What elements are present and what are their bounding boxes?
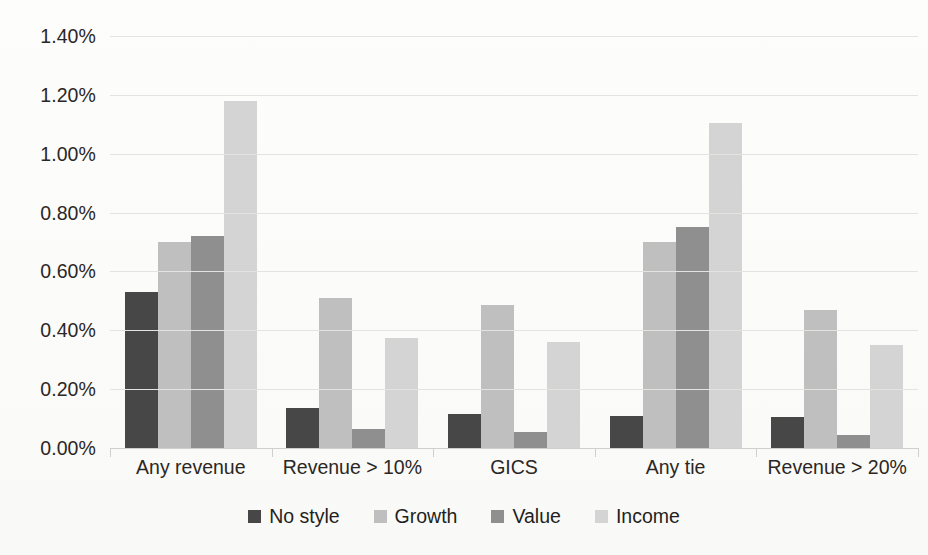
bar-group <box>110 36 272 448</box>
gridline <box>110 389 918 390</box>
plot-area <box>110 36 918 448</box>
x-axis-label: Any tie <box>595 456 757 479</box>
bar[interactable] <box>610 416 643 448</box>
bar-group <box>272 36 434 448</box>
y-axis-tick-label: 0.60% <box>40 260 96 283</box>
bar-group <box>595 36 757 448</box>
bar[interactable] <box>837 435 870 448</box>
bar[interactable] <box>125 292 158 448</box>
bar[interactable] <box>514 432 547 448</box>
bar[interactable] <box>481 305 514 448</box>
bar[interactable] <box>158 242 191 448</box>
bar[interactable] <box>448 414 481 448</box>
gridline <box>110 36 918 37</box>
bar[interactable] <box>676 227 709 448</box>
x-axis-tick <box>433 448 434 457</box>
bar-group <box>433 36 595 448</box>
x-axis-label: Revenue > 10% <box>272 456 434 479</box>
legend-item[interactable]: Value <box>491 505 560 528</box>
y-axis-tick-label: 0.40% <box>40 319 96 342</box>
y-axis-tick-label: 1.40% <box>40 25 96 48</box>
bar[interactable] <box>547 342 580 448</box>
x-axis-tick <box>272 448 273 457</box>
bar-group <box>756 36 918 448</box>
legend-label: Growth <box>395 505 458 528</box>
x-axis-tick <box>756 448 757 457</box>
y-axis-tick-label: 0.80% <box>40 201 96 224</box>
x-axis-tick <box>918 448 919 457</box>
y-axis-tick-label: 0.20% <box>40 378 96 401</box>
bar[interactable] <box>191 236 224 448</box>
legend-item[interactable]: No style <box>248 505 339 528</box>
x-axis-tick <box>110 448 111 457</box>
legend-item[interactable]: Income <box>595 505 680 528</box>
grouped-bar-chart: 0.00%0.20%0.40%0.60%0.80%1.00%1.20%1.40%… <box>0 0 928 555</box>
gridline <box>110 330 918 331</box>
x-axis-tick <box>595 448 596 457</box>
legend-item[interactable]: Growth <box>374 505 458 528</box>
legend-swatch-icon <box>491 510 504 523</box>
legend-swatch-icon <box>595 510 608 523</box>
legend-label: Income <box>616 505 680 528</box>
bar[interactable] <box>709 123 742 448</box>
legend-label: No style <box>269 505 339 528</box>
bar[interactable] <box>319 298 352 448</box>
legend-label: Value <box>512 505 560 528</box>
gridline <box>110 271 918 272</box>
chart-legend: No styleGrowthValueIncome <box>0 505 928 528</box>
legend-swatch-icon <box>248 510 261 523</box>
bar[interactable] <box>352 429 385 448</box>
bar[interactable] <box>385 338 418 448</box>
bar[interactable] <box>771 417 804 448</box>
y-axis-tick-label: 1.00% <box>40 142 96 165</box>
legend-swatch-icon <box>374 510 387 523</box>
bar[interactable] <box>870 345 903 448</box>
y-axis-tick-label: 0.00% <box>40 437 96 460</box>
x-axis-line <box>110 448 918 449</box>
y-axis-tick-label: 1.20% <box>40 83 96 106</box>
y-axis: 0.00%0.20%0.40%0.60%0.80%1.00%1.20%1.40% <box>0 0 110 460</box>
gridline <box>110 213 918 214</box>
bar[interactable] <box>643 242 676 448</box>
bar[interactable] <box>286 408 319 448</box>
gridline <box>110 95 918 96</box>
x-axis-label: Revenue > 20% <box>756 456 918 479</box>
x-axis-label: Any revenue <box>110 456 272 479</box>
gridline <box>110 154 918 155</box>
bar-groups <box>110 36 918 448</box>
x-axis-labels: Any revenueRevenue > 10%GICSAny tieReven… <box>110 456 918 479</box>
x-axis-label: GICS <box>433 456 595 479</box>
